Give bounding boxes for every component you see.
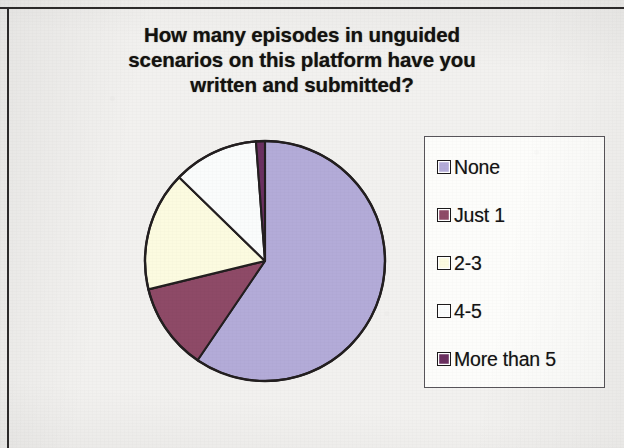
legend-item-none[interactable]: None (437, 153, 600, 181)
legend-swatch-4-5-icon (437, 304, 451, 318)
legend-item-list: None Just 1 2-3 4-5 More than 5 (437, 143, 600, 383)
legend-label-more-than-5: More than 5 (454, 348, 556, 370)
chart-legend: None Just 1 2-3 4-5 More than 5 (424, 136, 605, 388)
legend-label-none: None (454, 156, 500, 178)
legend-swatch-2-3-icon (437, 256, 451, 270)
legend-label-just-1: Just 1 (454, 204, 505, 226)
legend-swatch-just-1-icon (437, 208, 451, 222)
legend-item-4-5[interactable]: 4-5 (437, 297, 600, 325)
legend-swatch-more-than-5-icon (437, 352, 451, 366)
legend-label-4-5: 4-5 (454, 300, 482, 322)
chart-page: How many episodes in unguided scenarios … (0, 0, 624, 448)
legend-item-2-3[interactable]: 2-3 (437, 249, 600, 277)
legend-item-more-than-5[interactable]: More than 5 (437, 345, 600, 373)
legend-swatch-none-icon (437, 160, 451, 174)
legend-label-2-3: 2-3 (454, 252, 482, 274)
legend-item-just-1[interactable]: Just 1 (437, 201, 600, 229)
